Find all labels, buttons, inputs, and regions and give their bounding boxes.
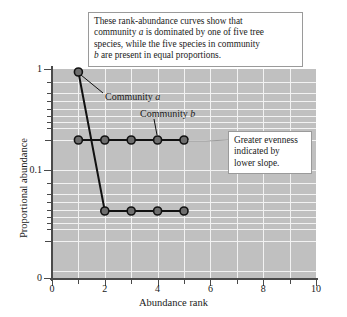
data-point [127, 207, 135, 215]
callout-evenness: Greater evenness indicated by lower slop… [228, 131, 312, 174]
leader-line-evenness [188, 140, 228, 141]
data-point [101, 207, 109, 215]
data-point [154, 207, 162, 215]
leader-line-community-b [154, 119, 157, 135]
data-point [74, 136, 82, 144]
figure: 1 0.1 0 0 2 4 6 8 10 Proportional abunda… [0, 0, 347, 317]
series-label-community-b: Community b [140, 108, 195, 119]
data-point [180, 207, 188, 215]
data-point [154, 136, 162, 144]
series-label-community-a: Community a [105, 91, 160, 102]
data-point [180, 136, 188, 144]
data-point [101, 136, 109, 144]
data-point [127, 136, 135, 144]
callout-description: These rank-abundance curves show that co… [88, 12, 303, 67]
leader-line-community-a [81, 75, 103, 93]
